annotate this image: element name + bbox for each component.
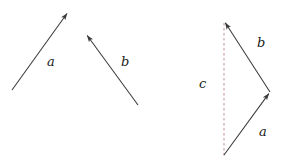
vector-b-left-line xyxy=(87,36,138,106)
vector-label-b-sum: b xyxy=(257,36,265,49)
vector-b-sum-line xyxy=(225,23,270,92)
vector-label-b-left: b xyxy=(121,55,129,68)
vector-diagram-figure: a b c b a xyxy=(0,0,292,167)
vector-canvas xyxy=(0,0,292,167)
vector-label-a-left: a xyxy=(47,55,55,68)
vector-label-c-sum: c xyxy=(199,77,206,90)
vector-label-a-sum: a xyxy=(259,125,267,138)
vector-a-left-line xyxy=(12,14,67,91)
